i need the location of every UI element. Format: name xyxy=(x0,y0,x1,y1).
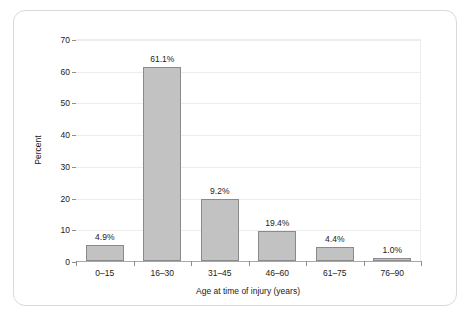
bar-value-label: 61.1% xyxy=(150,54,174,64)
x-tick-mark xyxy=(249,261,250,266)
y-axis-title: Percent xyxy=(33,135,43,164)
figure-frame: Percent 010203040506070 4.9%61.1%9.2%19.… xyxy=(13,10,457,306)
bar-value-label: 4.9% xyxy=(95,232,114,242)
bar-value-label: 1.0% xyxy=(383,245,402,255)
bar-slot: 61.1% xyxy=(134,40,192,261)
bar-slot: 19.4% xyxy=(249,40,307,261)
x-tick-mark xyxy=(191,261,192,266)
bar[interactable] xyxy=(86,245,124,261)
x-tick-label: 0–15 xyxy=(95,268,114,278)
x-tick-mark xyxy=(134,261,135,266)
bar-value-label: 4.4% xyxy=(325,234,344,244)
y-tick-label: 10 xyxy=(61,225,70,235)
plot-area: 010203040506070 4.9%61.1%9.2%19.4%4.4%1.… xyxy=(76,39,421,261)
x-tick-label: 31–45 xyxy=(208,268,232,278)
bar[interactable] xyxy=(373,258,411,261)
y-tick-label: 40 xyxy=(61,130,70,140)
y-tick-label: 50 xyxy=(61,98,70,108)
x-tick-label: 16–30 xyxy=(150,268,174,278)
y-tick-label: 0 xyxy=(65,257,70,267)
bar-value-label: 19.4% xyxy=(265,218,289,228)
x-axis-title: Age at time of injury (years) xyxy=(196,286,300,296)
x-tick-label: 46–60 xyxy=(265,268,289,278)
bar-slot: 9.2% xyxy=(191,40,249,261)
x-tick-mark xyxy=(364,261,365,266)
x-tick-label: 76–90 xyxy=(380,268,404,278)
bar[interactable] xyxy=(258,231,296,261)
bar-slot: 4.9% xyxy=(76,40,134,261)
bar[interactable] xyxy=(201,199,239,261)
bar-slot: 4.4% xyxy=(306,40,364,261)
bar-value-label: 9.2% xyxy=(210,186,229,196)
x-tick-mark xyxy=(306,261,307,266)
y-tick-label: 70 xyxy=(61,35,70,45)
y-tick-label: 30 xyxy=(61,162,70,172)
x-tick-mark xyxy=(421,261,422,266)
y-tick-label: 20 xyxy=(61,194,70,204)
bar[interactable] xyxy=(143,67,181,261)
y-tick-label: 60 xyxy=(61,67,70,77)
x-tick-label: 61–75 xyxy=(323,268,347,278)
bar-slot: 1.0% xyxy=(364,40,422,261)
bar[interactable] xyxy=(316,247,354,261)
x-tick-mark xyxy=(76,261,77,266)
